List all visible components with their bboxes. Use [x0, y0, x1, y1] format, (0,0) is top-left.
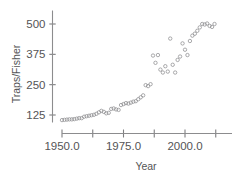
data-point: [171, 63, 174, 66]
x-axis-tick-labels: 1950.01975.02000.0: [44, 140, 202, 152]
data-point: [181, 42, 184, 45]
y-axis-title: Traps/Fisher: [10, 44, 22, 103]
data-point: [154, 61, 157, 64]
y-tick-label: 375: [26, 48, 45, 60]
y-tick-label: 500: [26, 18, 45, 30]
data-point: [166, 70, 169, 73]
chart-canvas: 125250375500 1950.01975.02000.0 Traps/Fi…: [0, 0, 237, 175]
scatter-chart-figure: 125250375500 1950.01975.02000.0 Traps/Fi…: [0, 0, 237, 175]
data-point: [183, 48, 186, 51]
y-axis-tick-labels: 125250375500: [26, 18, 45, 121]
data-point: [198, 26, 201, 29]
data-point: [169, 37, 172, 40]
data-point: [196, 29, 199, 32]
data-point: [149, 82, 152, 85]
data-point: [193, 32, 196, 35]
x-axis-title: Year: [135, 160, 157, 172]
data-point: [213, 22, 216, 25]
data-point: [186, 53, 189, 56]
y-tick-label: 125: [26, 109, 45, 121]
x-tick-label: 1950.0: [44, 140, 79, 152]
data-point: [156, 53, 159, 56]
data-point: [151, 54, 154, 57]
data-point: [161, 71, 164, 74]
data-point: [173, 71, 176, 74]
data-point-markers: [60, 22, 216, 122]
data-point: [141, 94, 144, 97]
data-point: [159, 68, 162, 71]
x-tick-label: 1975.0: [106, 140, 141, 152]
data-point: [176, 58, 179, 61]
data-point: [188, 39, 191, 42]
data-point: [164, 65, 167, 68]
x-tick-label: 2000.0: [167, 140, 202, 152]
data-point: [178, 55, 181, 58]
y-tick-label: 250: [26, 79, 45, 91]
